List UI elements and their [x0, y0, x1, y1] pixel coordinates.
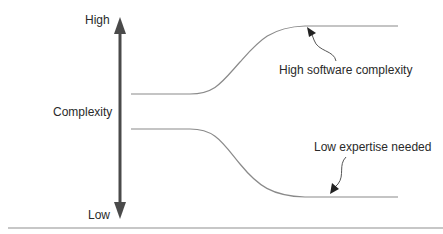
upper-annotation-pointer — [307, 27, 336, 61]
annotation-low-expertise-needed: Low expertise needed — [314, 140, 431, 154]
arrow-up-icon — [114, 17, 126, 34]
software-complexity-curve — [131, 26, 398, 94]
pointer-arrowhead-icon — [307, 27, 316, 37]
lower-annotation-pointer — [330, 157, 346, 194]
complexity-axis-arrow — [114, 17, 126, 219]
axis-complexity-label: Complexity — [53, 105, 112, 119]
annotation-high-software-complexity: High software complexity — [279, 63, 412, 77]
axis-high-label: High — [85, 13, 110, 27]
axis-low-label: Low — [88, 208, 110, 222]
arrow-down-icon — [114, 202, 126, 219]
